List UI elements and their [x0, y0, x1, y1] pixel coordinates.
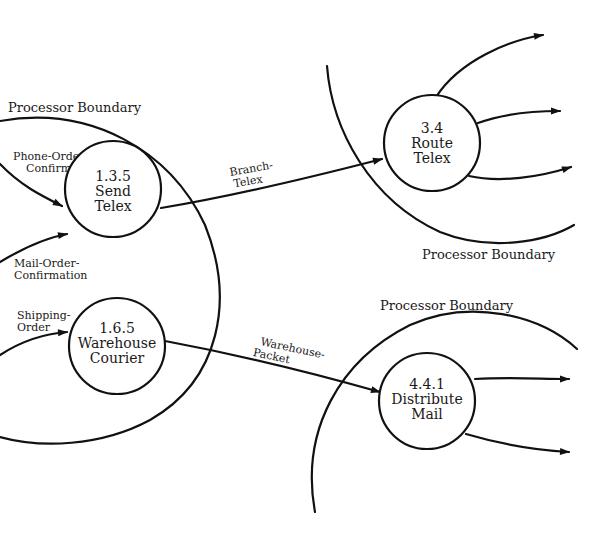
process-name-line2: Telex: [94, 198, 131, 214]
flow-label-line2: Order: [17, 321, 51, 334]
flow-distribute-mail-out-1: [475, 378, 569, 379]
process-name-line1: Route: [411, 135, 453, 151]
boundary-left-label: Processor Boundary: [8, 100, 142, 115]
flow-arrow: [475, 378, 569, 379]
flow-arrow: [436, 35, 543, 97]
flow-arrow: [466, 434, 569, 452]
flow-route-telex-out-2: [478, 111, 560, 123]
flow-shipping-order: Shipping- Order: [0, 309, 71, 355]
flow-label-line2: Confirmation: [14, 269, 87, 282]
flow-branch-telex: Branch- Telex: [161, 158, 382, 208]
process-number: 1.6.5: [99, 320, 135, 336]
process-name-line1: Distribute: [391, 391, 463, 407]
flow-arrow: [478, 111, 560, 123]
flow-mail-order-confirmation: Mail-Order- Confirmation: [0, 234, 87, 282]
boundary-bottom-right-label: Processor Boundary: [380, 298, 514, 313]
process-name-line1: Send: [95, 183, 131, 199]
process-name-line1: Warehouse: [78, 335, 156, 351]
process-name-line2: Mail: [411, 406, 443, 422]
flow-distribute-mail-out-2: [466, 434, 569, 452]
process-number: 4.4.1: [409, 376, 445, 392]
process-send-telex[interactable]: 1.3.5 Send Telex: [65, 141, 161, 237]
boundary-top-right-label: Processor Boundary: [422, 247, 556, 262]
flow-warehouse-packet: Warehouse- Packet: [165, 334, 380, 392]
flow-route-telex-out-3: [469, 167, 571, 179]
process-number: 3.4: [421, 120, 443, 136]
data-flow-diagram: Processor Boundary Processor Boundary Pr…: [0, 0, 611, 538]
process-warehouse-courier[interactable]: 1.6.5 Warehouse Courier: [69, 298, 165, 394]
flow-route-telex-out-1: [436, 35, 543, 97]
process-name-line2: Courier: [90, 350, 145, 366]
flow-arrow: [0, 332, 67, 355]
process-distribute-mail[interactable]: 4.4.1 Distribute Mail: [379, 353, 475, 449]
process-number: 1.3.5: [95, 168, 131, 184]
process-route-telex[interactable]: 3.4 Route Telex: [384, 95, 480, 191]
flow-arrow: [469, 167, 571, 179]
process-name-line2: Telex: [413, 150, 450, 166]
